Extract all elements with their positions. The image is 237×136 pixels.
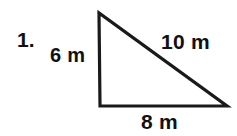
problem-number: 1.: [17, 29, 35, 50]
side-label-vertical-leg: 6 m: [50, 45, 85, 65]
triangle-outline: [99, 13, 227, 106]
geometry-figure: 1. 6 m 10 m 8 m: [0, 0, 237, 136]
side-label-hypotenuse: 10 m: [161, 31, 210, 52]
side-label-base-leg: 8 m: [141, 111, 178, 132]
right-triangle-drawing: [0, 0, 237, 136]
